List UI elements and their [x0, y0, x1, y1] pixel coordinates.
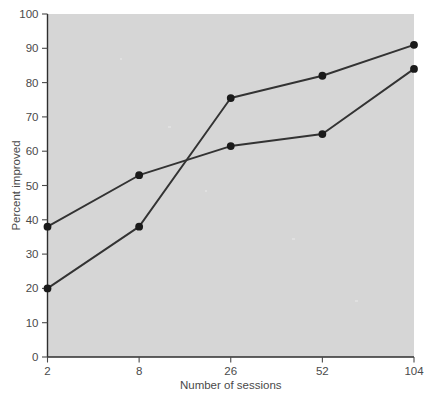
data-point-series-b-26	[227, 142, 235, 150]
y-tick-label-0: 0	[32, 351, 38, 363]
data-point-series-b-52	[318, 130, 326, 138]
data-point-series-a-8	[135, 223, 143, 231]
y-tick-label-80: 80	[26, 77, 39, 89]
y-tick-label-40: 40	[26, 214, 39, 226]
data-point-series-a-2	[44, 285, 52, 293]
y-tick-label-90: 90	[26, 42, 39, 54]
y-tick-label-100: 100	[19, 8, 38, 20]
x-tick-label-52: 52	[316, 365, 329, 377]
scan-artifact-2	[120, 58, 122, 60]
x-tick-label-26: 26	[224, 365, 237, 377]
data-point-series-b-8	[135, 171, 143, 179]
data-point-series-a-26	[227, 94, 235, 102]
data-point-series-b-104	[410, 65, 418, 73]
scan-artifact-3	[355, 300, 358, 302]
x-axis-title: Number of sessions	[180, 379, 282, 391]
y-tick-label-50: 50	[26, 180, 39, 192]
data-point-series-b-2	[44, 223, 52, 231]
scan-artifact-0	[168, 126, 171, 128]
data-point-series-a-104	[410, 41, 418, 49]
y-tick-label-10: 10	[26, 317, 39, 329]
x-tick-label-2: 2	[44, 365, 50, 377]
y-axis-title: Percent improved	[10, 140, 22, 230]
scan-artifact-1	[292, 238, 295, 240]
x-tick-label-104: 104	[404, 365, 424, 377]
y-tick-label-30: 30	[26, 248, 39, 260]
chart-canvas: 0102030405060708090100282652104Number of…	[0, 0, 433, 403]
y-tick-label-60: 60	[26, 145, 39, 157]
y-tick-label-70: 70	[26, 111, 39, 123]
scan-artifact-4	[205, 190, 207, 192]
y-tick-label-20: 20	[26, 282, 39, 294]
x-tick-label-8: 8	[136, 365, 142, 377]
plot-area-background	[48, 14, 415, 357]
data-point-series-a-52	[318, 72, 326, 80]
line-chart: 0102030405060708090100282652104Number of…	[0, 0, 433, 403]
